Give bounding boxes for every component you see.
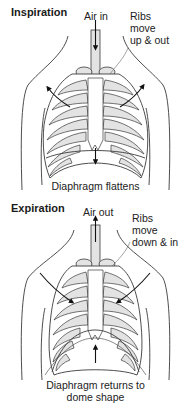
air-in-label: Air in — [84, 10, 108, 22]
ribs-up-label-3: up & out — [130, 34, 169, 46]
inspiration-panel: Inspiration Air in Ribs move up & out Di… — [0, 0, 191, 200]
diaphragm-returns-label-2: dome shape — [0, 391, 191, 403]
ribs-up-label-2: move — [130, 22, 156, 34]
ribs-down-label-3: down & in — [132, 236, 178, 248]
inspiration-ribcage-illustration — [0, 0, 191, 200]
expiration-panel: Expiration Air out Ribs move down & in D… — [0, 200, 191, 408]
ribs-leader-line — [110, 48, 128, 74]
ribs-down-label-1: Ribs — [132, 212, 153, 224]
inspiration-title: Inspiration — [11, 6, 67, 18]
expiration-title: Expiration — [11, 202, 65, 214]
expiration-ribcage-illustration — [0, 200, 191, 408]
diaphragm-flattens-label: Diaphragm flattens — [0, 180, 191, 192]
ribs-up-label-1: Ribs — [130, 10, 151, 22]
diaphragm-returns-label-1: Diaphragm returns to — [0, 379, 191, 391]
ribs-down-label-2: move — [132, 224, 158, 236]
air-out-label: Air out — [83, 206, 113, 218]
